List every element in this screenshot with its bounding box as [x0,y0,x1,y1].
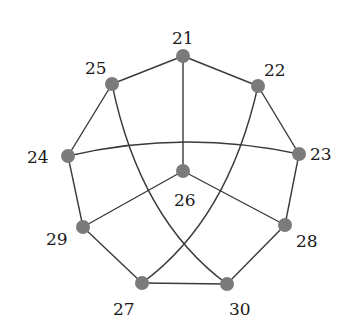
node-label-21: 21 [172,28,194,48]
node-label-26: 26 [174,190,196,210]
edge-25-24 [68,84,112,156]
node-23 [292,147,306,161]
edge-25-30 [112,84,227,284]
node-30 [220,277,234,291]
node-24 [61,149,75,163]
graph-diagram: 21222324252627282930 [0,0,342,335]
node-label-28: 28 [296,231,318,251]
edge-27-30 [142,283,227,284]
edge-26-29 [83,171,183,227]
node-25 [105,77,119,91]
edge-30-28 [227,225,285,284]
node-label-25: 25 [85,58,107,78]
node-21 [176,49,190,63]
node-label-22: 22 [264,60,286,80]
edge-22-23 [258,86,299,154]
edge-23-28 [285,154,299,225]
node-29 [76,220,90,234]
edge-21-22 [183,56,258,86]
edge-29-27 [83,227,142,283]
node-label-24: 24 [27,147,49,167]
edge-24-29 [68,156,83,227]
node-label-29: 29 [46,229,68,249]
node-27 [135,276,149,290]
node-26 [176,164,190,178]
node-28 [278,218,292,232]
node-label-30: 30 [229,299,251,319]
node-label-27: 27 [113,299,135,319]
edge-21-25 [112,56,183,84]
node-label-23: 23 [310,144,332,164]
edge-26-28 [183,171,285,225]
node-22 [251,79,265,93]
